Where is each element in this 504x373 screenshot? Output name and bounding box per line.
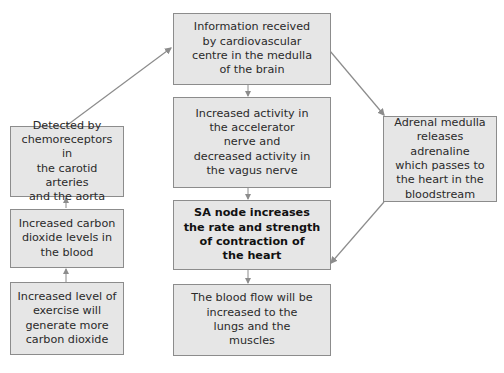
- node-exercise-text: Increased level of exercise will generat…: [18, 290, 117, 347]
- node-medulla: Information received by cardiovascular c…: [173, 13, 331, 85]
- node-sa-node-text: SA node increases the rate and strength …: [184, 206, 321, 263]
- node-sa-node: SA node increases the rate and strength …: [173, 200, 331, 270]
- node-chemoreceptors: Detected by chemoreceptors in the caroti…: [10, 126, 124, 197]
- arrow-adrenal-to-sanode: [331, 202, 384, 263]
- node-adrenal: Adrenal medulla releases adrenaline whic…: [383, 116, 497, 202]
- node-co2-levels: Increased carbon dioxide levels in the b…: [10, 209, 124, 268]
- arrow-chemoreceptors-to-medulla: [66, 48, 171, 126]
- node-nerves: Increased activity in the accelerator ne…: [173, 97, 331, 188]
- arrow-medulla-to-adrenal: [330, 51, 384, 115]
- node-nerves-text: Increased activity in the accelerator ne…: [194, 107, 311, 178]
- node-co2-levels-text: Increased carbon dioxide levels in the b…: [19, 217, 116, 260]
- node-adrenal-text: Adrenal medulla releases adrenaline whic…: [388, 116, 492, 202]
- node-medulla-text: Information received by cardiovascular c…: [192, 20, 312, 77]
- node-blood-flow-text: The blood flow will be increased to the …: [191, 291, 313, 348]
- node-exercise: Increased level of exercise will generat…: [10, 282, 124, 355]
- node-chemoreceptors-text: Detected by chemoreceptors in the caroti…: [15, 119, 119, 205]
- node-blood-flow: The blood flow will be increased to the …: [173, 284, 331, 356]
